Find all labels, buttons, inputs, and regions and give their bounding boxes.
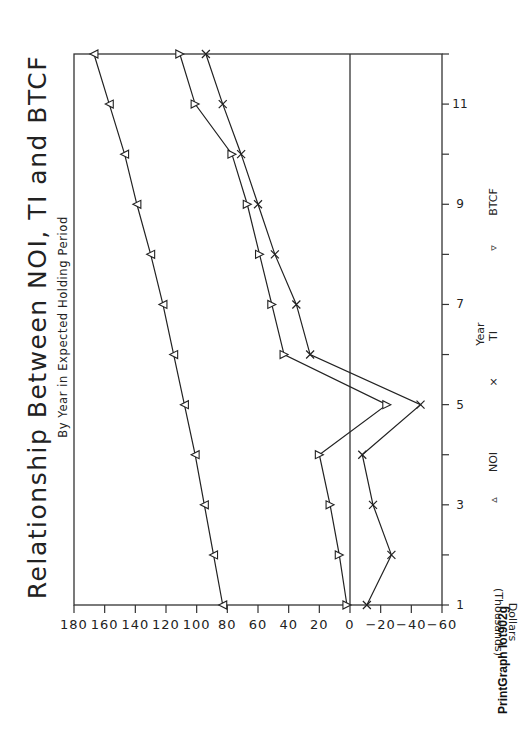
chart-subtitle: By Year in Expected Holding Period <box>56 216 70 438</box>
x-marker-icon <box>387 551 395 559</box>
triangle-down-marker-icon <box>383 401 391 409</box>
x-axis-label: Year <box>474 322 487 347</box>
dollar-axis: 180160140120100806040200−20−40−60 <box>60 605 457 632</box>
triangle-down-marker-icon <box>256 250 264 258</box>
triangle-up-marker-icon <box>133 200 141 208</box>
series-noi <box>90 50 227 609</box>
plot-frame <box>74 54 442 605</box>
x-marker-icon <box>306 351 314 359</box>
x-tick-label: 1 <box>456 598 464 612</box>
y-tick-label: 100 <box>183 617 211 632</box>
x-marker-icon <box>417 401 425 409</box>
x-tick-label: 5 <box>456 398 464 412</box>
y-tick-label: −20 <box>365 617 395 632</box>
y-tick-label: −60 <box>427 617 457 632</box>
line-chart: Relationship Between NOI, TI and BTCF By… <box>0 0 531 732</box>
triangle-down-marker-icon <box>280 351 288 359</box>
legend: Year ▵ NOI × TI ▿ BTCF <box>474 188 500 503</box>
x-marker-icon <box>254 200 262 208</box>
triangle-up-marker-icon <box>90 50 98 58</box>
x-tick-label: 3 <box>456 498 464 512</box>
chart-title: Relationship Between NOI, TI and BTCF <box>23 55 52 599</box>
x-marker-icon <box>271 250 279 258</box>
legend-noi-label: NOI <box>487 452 500 472</box>
y-tick-label: 20 <box>310 617 329 632</box>
y-tick-label: −40 <box>396 617 426 632</box>
x-marker-icon <box>219 100 227 108</box>
triangle-up-marker-icon <box>105 100 113 108</box>
triangle-down-marker-icon <box>228 150 236 158</box>
y-tick-label: 40 <box>279 617 298 632</box>
year-axis: 1357911 <box>442 54 468 612</box>
triangle-down-marker-icon <box>268 300 276 308</box>
y-tick-label: 160 <box>91 617 119 632</box>
triangle-up-marker-icon <box>147 250 155 258</box>
y-tick-label: 120 <box>152 617 180 632</box>
legend-ti-marker-icon: × <box>487 377 500 386</box>
plot-area <box>74 50 442 609</box>
legend-noi-marker-icon: ▵ <box>487 497 500 503</box>
x-tick-label: 7 <box>456 297 464 311</box>
legend-btcf-label: BTCF <box>487 188 500 216</box>
y-tick-label: 60 <box>249 617 268 632</box>
x-marker-icon <box>292 300 300 308</box>
legend-ti-label: TI <box>487 331 500 342</box>
y-tick-label: 140 <box>121 617 149 632</box>
y-tick-label: 0 <box>345 617 354 632</box>
triangle-up-marker-icon <box>121 150 129 158</box>
printgraph-footer: PrintGraph lot902g <box>496 606 510 714</box>
rotated-chart: Relationship Between NOI, TI and BTCF By… <box>0 0 531 732</box>
series-ti <box>202 50 425 609</box>
x-tick-label: 9 <box>456 197 464 211</box>
y-tick-label: 80 <box>218 617 237 632</box>
x-tick-label: 11 <box>452 97 467 111</box>
y-tick-label: 180 <box>60 617 88 632</box>
triangle-down-marker-icon <box>243 200 251 208</box>
legend-btcf-marker-icon: ▿ <box>487 245 500 251</box>
triangle-down-marker-icon <box>176 50 184 58</box>
x-marker-icon <box>237 150 245 158</box>
